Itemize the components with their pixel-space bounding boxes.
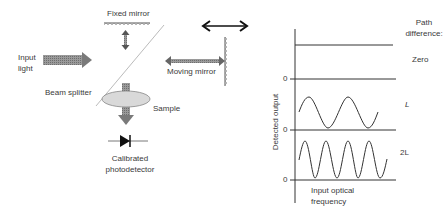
fixed-mirror (104, 23, 150, 25)
legend-title-2: difference: (400, 29, 448, 39)
legend-title-1: Path (400, 18, 448, 28)
input-light-arrow-icon (43, 52, 92, 68)
vertical-beam-arrow-icon (122, 30, 130, 50)
trace-label-2l: 2L (400, 148, 409, 158)
detector-label-2: photodetector (100, 165, 160, 175)
photodetector-diode-icon (108, 135, 148, 147)
plot-axes (290, 29, 396, 203)
beam-splitter-label: Beam splitter (45, 88, 92, 98)
trace-l (299, 97, 378, 128)
diagram-canvas (0, 0, 448, 217)
input-light-label-2: light (18, 64, 33, 74)
trace-label-l: L (405, 100, 409, 110)
moving-mirror-label: Moving mirror (167, 67, 216, 77)
zero-tick-2l: 0 (283, 175, 287, 185)
fixed-mirror-label: Fixed mirror (107, 9, 150, 19)
detector-label-1: Calibrated (100, 154, 160, 164)
mirror-motion-arrow-icon (203, 21, 247, 31)
sample-label: Sample (153, 104, 180, 114)
moving-mirror-beam-arrow-icon (165, 56, 225, 66)
moving-mirror (225, 37, 227, 86)
trace-2l (299, 141, 387, 178)
x-axis-label-2: frequency (311, 197, 346, 207)
zero-tick-zero: 0 (283, 74, 287, 84)
input-light-label-1: Input (18, 53, 36, 63)
zero-tick-l: 0 (283, 125, 287, 135)
trace-label-zero: Zero (412, 55, 428, 65)
y-axis-label: Detected output (271, 82, 281, 162)
sample (102, 91, 150, 107)
x-axis-label-1: Input optical (311, 186, 354, 196)
